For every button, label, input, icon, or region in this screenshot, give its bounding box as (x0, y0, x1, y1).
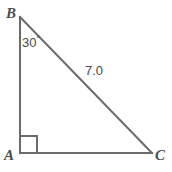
vertex-label-a: A (4, 148, 14, 163)
side-length-label-bc: 7.0 (85, 64, 103, 77)
vertex-label-c: C (155, 148, 165, 163)
degree-symbol-icon: ° (36, 34, 40, 44)
vertex-label-b: B (6, 6, 16, 21)
geometry-figure: B A C 30° 7.0 (0, 0, 172, 172)
right-angle-marker-icon (20, 136, 37, 153)
triangle-drawing (0, 0, 172, 172)
angle-measure-label-b: 30° (22, 35, 40, 49)
